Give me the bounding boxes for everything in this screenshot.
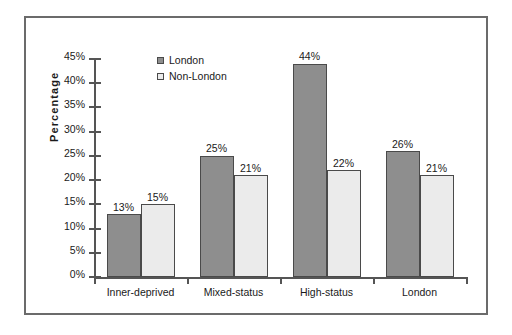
y-tick-label: 40% <box>64 75 85 86</box>
bar[interactable]: 22% <box>327 170 361 277</box>
bar-value-label: 25% <box>206 143 227 154</box>
category-label: High-status <box>300 287 353 298</box>
x-tick-mark <box>187 277 189 284</box>
x-tick-mark <box>373 277 375 284</box>
bar[interactable]: 25% <box>200 156 234 277</box>
bar[interactable]: 21% <box>420 175 454 277</box>
y-tick-label: 35% <box>64 99 85 110</box>
y-tick-mark <box>89 252 101 254</box>
bar-value-label: 13% <box>113 202 134 213</box>
bar-value-label: 15% <box>147 192 168 203</box>
x-tick-mark <box>94 277 96 284</box>
y-tick-label: 20% <box>64 172 85 183</box>
category-label: Mixed-status <box>204 287 264 298</box>
y-tick-label: 45% <box>64 51 85 62</box>
y-axis-title: Percentage <box>48 126 60 142</box>
category-label: London <box>402 287 437 298</box>
bar-value-label: 21% <box>426 163 447 174</box>
bar-value-label: 26% <box>392 139 413 150</box>
bar-value-label: 22% <box>333 158 354 169</box>
y-tick-mark <box>89 131 101 133</box>
bar-value-label: 44% <box>299 51 320 62</box>
bar[interactable]: 13% <box>107 214 141 277</box>
bar[interactable]: 44% <box>293 64 327 277</box>
bar[interactable]: 15% <box>141 204 175 277</box>
y-tick-mark <box>89 58 101 60</box>
bar[interactable]: 21% <box>234 175 268 277</box>
y-tick-label: 25% <box>64 148 85 159</box>
y-tick-label: 10% <box>64 221 85 232</box>
chart-frame: Percentage London Non-London 0%5%10%15%2… <box>24 16 488 315</box>
y-tick-mark <box>89 179 101 181</box>
y-axis-line <box>94 59 96 278</box>
y-tick-mark <box>89 155 101 157</box>
y-tick-mark <box>89 106 101 108</box>
y-tick-mark <box>89 228 101 230</box>
bar-value-label: 21% <box>240 163 261 174</box>
bar[interactable]: 26% <box>386 151 420 277</box>
y-tick-mark <box>89 203 101 205</box>
category-label: Inner-deprived <box>107 287 175 298</box>
x-tick-mark <box>280 277 282 284</box>
y-tick-label: 30% <box>64 124 85 135</box>
y-tick-label: 0% <box>70 269 85 280</box>
plot-area: 0%5%10%15%20%25%30%35%40%45% 13%15%25%21… <box>94 59 466 277</box>
y-tick-label: 15% <box>64 196 85 207</box>
y-tick-mark <box>89 82 101 84</box>
x-tick-mark <box>466 277 468 284</box>
y-tick-label: 5% <box>70 245 85 256</box>
